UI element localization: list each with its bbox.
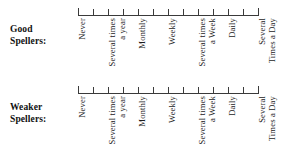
axis-tick <box>153 87 154 94</box>
axis-tick <box>243 87 244 94</box>
axis-tick <box>198 9 199 16</box>
axis-tick-label-line: Never <box>78 18 88 40</box>
axis-line-weaker-spellers <box>78 93 258 94</box>
axis-tick <box>108 9 109 16</box>
axis-tick <box>168 9 169 16</box>
spelling-frequency-figure: Good Spellers: NeverSeveral timesa yearM… <box>0 0 285 151</box>
row-caption-good-spellers: Good Spellers: <box>10 24 72 47</box>
axis-tick <box>213 9 214 16</box>
axis-tick <box>153 9 154 16</box>
row-caption-line-2: Spellers: <box>10 36 72 48</box>
row-caption-line-1: Weaker <box>10 102 72 114</box>
axis-tick-label-line: Daily <box>228 96 238 116</box>
axis-tick <box>138 9 139 16</box>
row-caption-weaker-spellers: Weaker Spellers: <box>10 102 72 125</box>
axis-tick <box>228 87 229 94</box>
axis-tick <box>123 87 124 94</box>
axis-tick-label-line: Times a Day <box>268 96 278 141</box>
axis-tick <box>198 87 199 94</box>
axis-tick <box>93 9 94 16</box>
axis-tick <box>183 9 184 16</box>
axis-tick <box>228 9 229 16</box>
axis-tick-label-line: Monthly <box>138 96 148 127</box>
axis-tick <box>78 86 79 94</box>
axis-tick-label-line: a Week <box>208 18 218 44</box>
axis-tick-label-line: a year <box>118 96 128 118</box>
axis-tick <box>138 87 139 94</box>
axis-tick <box>78 8 79 16</box>
axis-tick-label-line: a Week <box>208 96 218 122</box>
axis-tick <box>93 87 94 94</box>
axis-tick <box>108 87 109 94</box>
row-caption-line-1: Good <box>10 24 72 36</box>
axis-tick-label-line: Weekly <box>168 96 178 123</box>
axis-tick <box>183 87 184 94</box>
axis-tick <box>258 8 259 16</box>
axis-tick <box>168 87 169 94</box>
axis-tick-label-line: Monthly <box>138 18 148 49</box>
axis-tick-label-line: a year <box>118 18 128 40</box>
axis-tick <box>258 86 259 94</box>
axis-line-good-spellers <box>78 15 258 16</box>
axis-tick <box>123 9 124 16</box>
axis-tick-label-line: Never <box>78 96 88 118</box>
axis-tick-label-line: Weekly <box>168 18 178 45</box>
axis-tick-label-line: Times a Day <box>268 18 278 63</box>
row-caption-line-2: Spellers: <box>10 114 72 126</box>
axis-tick-label-line: Daily <box>228 18 238 38</box>
axis-tick <box>213 87 214 94</box>
axis-tick <box>243 9 244 16</box>
